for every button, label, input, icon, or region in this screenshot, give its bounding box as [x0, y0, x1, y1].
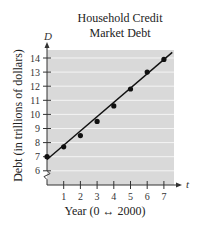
x-tick-label: 1 — [61, 191, 66, 202]
data-point — [111, 103, 116, 108]
x-tick-label: 7 — [161, 191, 166, 202]
x-tick-label: 5 — [128, 191, 133, 202]
plot-area: 67891011121314Dt1234567 — [0, 0, 199, 225]
x-axis-arrow-icon — [176, 183, 182, 188]
x-tick-label: 6 — [145, 191, 150, 202]
y-axis-variable: D — [43, 30, 52, 42]
data-point — [145, 70, 150, 75]
y-tick-label: 14 — [30, 53, 40, 64]
x-axis-variable: t — [186, 178, 190, 190]
data-point — [61, 144, 66, 149]
y-tick-label: 12 — [30, 81, 40, 92]
data-point — [44, 154, 49, 159]
data-point — [78, 133, 83, 138]
y-tick-label: 11 — [30, 95, 40, 106]
y-tick-label: 6 — [35, 165, 40, 176]
data-point — [161, 57, 166, 62]
y-tick-label: 8 — [35, 137, 40, 148]
y-tick-label: 10 — [30, 109, 40, 120]
data-point — [128, 86, 133, 91]
y-tick-label: 7 — [35, 151, 40, 162]
data-point — [95, 119, 100, 124]
y-tick-label: 9 — [35, 123, 40, 134]
y-axis-arrow-icon — [45, 42, 50, 48]
x-tick-label: 2 — [78, 191, 83, 202]
x-tick-label: 3 — [95, 191, 100, 202]
plot-background — [47, 50, 174, 185]
x-tick-label: 4 — [111, 191, 116, 202]
y-tick-label: 13 — [30, 67, 40, 78]
